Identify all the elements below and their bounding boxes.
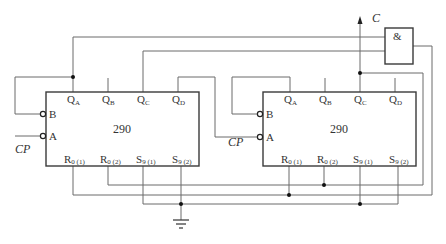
wire-left-qc-to-and: [143, 51, 385, 92]
right-b-inversion-bubble-icon: [257, 111, 262, 116]
and-gate: &: [385, 28, 413, 64]
circuit-diagram: C & 290 QA QB QC QD B A R0 (1) R0 (2) S9…: [0, 0, 446, 244]
junction-dot: [287, 193, 291, 197]
junction-dot: [358, 71, 362, 75]
right-a-inversion-bubble-icon: [257, 134, 262, 139]
right-counter-chip: 290 QA QB QC QD B A R0 (1) R0 (2) S9 (1)…: [257, 92, 416, 166]
left-b-inversion-bubble-icon: [40, 111, 45, 116]
left-a-inversion-bubble-icon: [40, 133, 45, 138]
output-label-c: C: [372, 11, 381, 25]
right-clock-label: CP: [228, 135, 244, 149]
junction-dot: [322, 183, 326, 187]
right-pin-b: B: [266, 108, 273, 120]
right-chip-name: 290: [330, 122, 348, 136]
junction-dot: [71, 75, 75, 79]
wire-left-qa-to-and: [73, 37, 385, 92]
ground-icon: [173, 220, 189, 228]
left-clock-label: CP: [15, 142, 31, 156]
right-pin-a: A: [266, 131, 274, 143]
junction-dot: [179, 202, 183, 206]
left-counter-chip: 290 QA QB QC QD B A R0 (1) R0 (2) S9 (1)…: [40, 92, 199, 166]
left-pin-b: B: [49, 108, 56, 120]
output-arrow-icon: [358, 16, 363, 24]
and-gate-symbol: &: [393, 30, 402, 42]
junction-dot: [358, 202, 362, 206]
left-chip-name: 290: [113, 122, 131, 136]
left-pin-a: A: [49, 130, 57, 142]
